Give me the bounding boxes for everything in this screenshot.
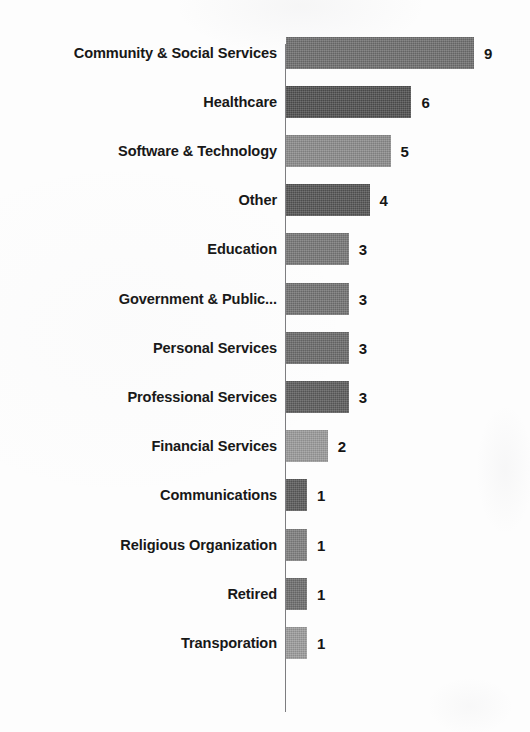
bar-value-label: 3 <box>359 290 367 307</box>
bar-value-label: 1 <box>317 585 325 602</box>
bar-value-label: 1 <box>317 536 325 553</box>
category-label: Education <box>207 241 277 257</box>
bar <box>286 627 307 659</box>
bar-row: Retired1 <box>0 569 530 618</box>
category-label: Communications <box>160 487 277 503</box>
category-label: Software & Technology <box>118 143 277 159</box>
category-label: Transporation <box>181 635 277 651</box>
bar-value-label: 3 <box>359 388 367 405</box>
bar-row: Transporation1 <box>0 618 530 667</box>
bar-value-label: 3 <box>359 241 367 258</box>
category-label: Retired <box>227 586 277 602</box>
bar-value-label: 5 <box>401 142 409 159</box>
bar <box>286 479 307 511</box>
bar <box>286 578 307 610</box>
category-label: Religious Organization <box>120 537 277 553</box>
bar-value-label: 1 <box>317 634 325 651</box>
bar-row: Communications1 <box>0 471 530 520</box>
category-label: Personal Services <box>153 340 277 356</box>
bar-row: Other4 <box>0 176 530 225</box>
category-label: Community & Social Services <box>74 45 277 61</box>
bar-value-label: 2 <box>338 438 346 455</box>
bar-row: Professional Services3 <box>0 372 530 421</box>
bar <box>286 135 391 167</box>
bar-value-label: 6 <box>421 93 429 110</box>
bar <box>286 529 307 561</box>
bar <box>286 184 370 216</box>
bar-row: Personal Services3 <box>0 323 530 372</box>
category-label: Financial Services <box>151 438 277 454</box>
bar-row: Healthcare6 <box>0 77 530 126</box>
category-label: Healthcare <box>203 94 277 110</box>
bar-value-label: 9 <box>484 44 492 61</box>
bar-row: Software & Technology5 <box>0 126 530 175</box>
bar-row: Financial Services2 <box>0 422 530 471</box>
bar-row: Religious Organization1 <box>0 520 530 569</box>
category-label: Professional Services <box>127 389 277 405</box>
bar <box>286 430 328 462</box>
bar-chart-figure: Community & Social Services9Healthcare6S… <box>0 0 530 732</box>
bar-value-label: 3 <box>359 339 367 356</box>
bar <box>286 381 349 413</box>
bar <box>286 86 411 118</box>
bar <box>286 37 474 69</box>
category-label: Other <box>239 192 277 208</box>
bar-value-label: 4 <box>380 192 388 209</box>
plot-area: Community & Social Services9Healthcare6S… <box>0 0 530 732</box>
bar-row: Community & Social Services9 <box>0 28 530 77</box>
bar <box>286 332 349 364</box>
bar-row: Government & Public...3 <box>0 274 530 323</box>
bar <box>286 233 349 265</box>
category-axis-line <box>285 44 286 712</box>
bar <box>286 283 349 315</box>
bar-value-label: 1 <box>317 487 325 504</box>
bar-row: Education3 <box>0 225 530 274</box>
category-label: Government & Public... <box>119 291 277 307</box>
